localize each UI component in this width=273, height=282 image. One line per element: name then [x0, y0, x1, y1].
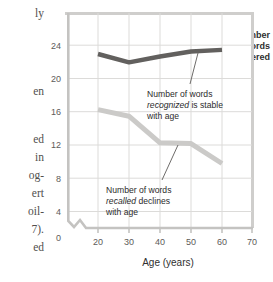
annotation-line: with age — [146, 111, 179, 121]
xtick-label: 70 — [247, 237, 257, 247]
ytick-label: 12 — [51, 140, 61, 150]
ytick-label: 8 — [56, 174, 61, 184]
ytick-label: 24 — [51, 41, 61, 51]
ytick-label: 4 — [56, 207, 61, 217]
annotation-line: recognized is stable — [147, 100, 223, 110]
annotation-line: Number of words — [106, 185, 171, 195]
annotation-line: with age — [105, 207, 138, 217]
ytick-label: 20 — [51, 74, 61, 84]
chart-ytick-labels: 24 20 16 12 8 4 0 — [51, 41, 61, 243]
annotation-rest: declines — [136, 196, 170, 206]
annotation-emphasis: recalled — [106, 196, 136, 206]
xtick-label: 40 — [155, 237, 165, 247]
annotation-rest: is stable — [189, 100, 223, 110]
ytick-label: 0 — [56, 233, 61, 243]
chart-xtick-labels: 20 30 40 50 60 70 — [93, 237, 257, 247]
figure-page: ly en ed in og- ert oil- 7). ed Number o… — [0, 0, 273, 282]
x-axis-title: Age (years) — [142, 257, 194, 268]
line-chart: 24 20 16 12 8 4 0 20 30 40 50 60 70 Age … — [40, 0, 273, 282]
xtick-label: 60 — [217, 237, 227, 247]
xtick-label: 50 — [186, 237, 196, 247]
xtick-label: 20 — [93, 237, 103, 247]
annotation-emphasis: recognized — [147, 100, 189, 110]
xtick-label: 30 — [124, 237, 134, 247]
annotation-line: Number of words — [147, 89, 212, 99]
annotation-line: recalled declines — [106, 196, 170, 206]
chart-plot-area: 24 20 16 12 8 4 0 20 30 40 50 60 70 Age … — [40, 0, 273, 282]
ytick-label: 16 — [51, 107, 61, 117]
